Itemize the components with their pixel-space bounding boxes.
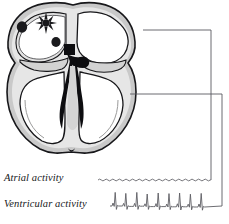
- ventricular-activity-trace: [110, 192, 222, 210]
- ventricular-connector: [130, 94, 222, 206]
- connector-lines: [130, 30, 222, 206]
- av-node: [64, 44, 75, 55]
- ventricular-activity-label: Ventricular activity: [4, 198, 87, 209]
- ecg-traces: [98, 179, 222, 210]
- ectopic-focus-blob-left: [17, 21, 27, 33]
- heart-conduction-figure: [0, 0, 229, 224]
- atrial-connector: [143, 30, 211, 180]
- heart-diagram: [7, 3, 136, 153]
- atrial-activity-trace: [98, 179, 211, 181]
- atrial-activity-label: Atrial activity: [4, 172, 64, 183]
- ectopic-focus-blob-right: [51, 37, 60, 47]
